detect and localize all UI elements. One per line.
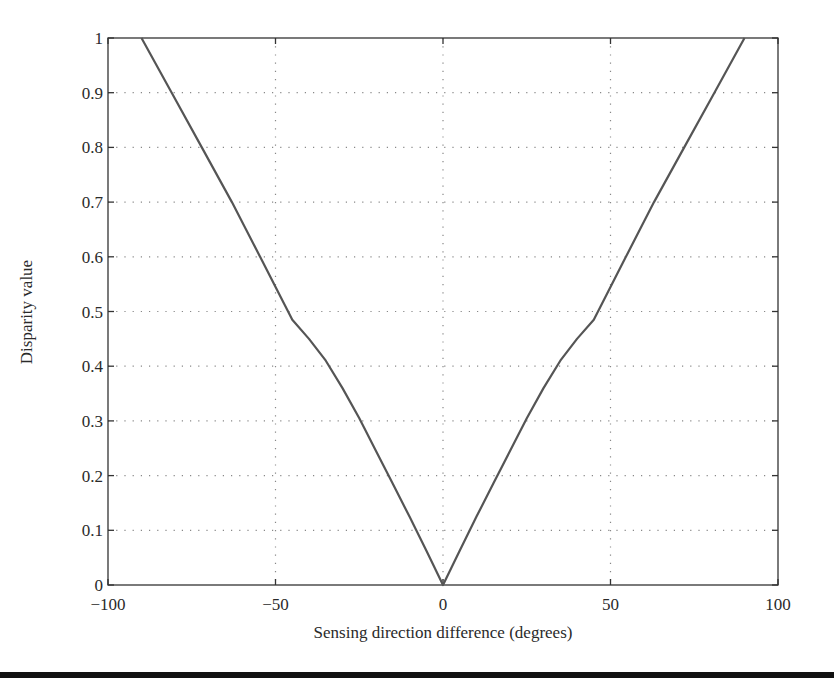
- grid-lines: [108, 38, 778, 585]
- y-tick-label: 0: [95, 576, 104, 595]
- x-tick-label: 50: [602, 595, 619, 614]
- bottom-rule-divider: [0, 672, 834, 678]
- x-tick-label: −50: [262, 595, 289, 614]
- line-chart: −100−50050100 00.10.20.30.40.50.60.70.80…: [0, 0, 834, 685]
- y-tick-label: 0.7: [82, 193, 104, 212]
- y-axis-label: Disparity value: [17, 260, 36, 364]
- x-axis-label: Sensing direction difference (degrees): [314, 623, 573, 642]
- x-tick-label: −100: [90, 595, 125, 614]
- y-tick-label: 0.5: [82, 303, 103, 322]
- y-tick-label: 0.1: [82, 521, 103, 540]
- y-tick-labels: 00.10.20.30.40.50.60.70.80.91: [82, 29, 104, 595]
- x-tick-label: 0: [439, 595, 448, 614]
- y-tick-label: 0.3: [82, 412, 103, 431]
- y-tick-label: 0.2: [82, 467, 103, 486]
- x-tick-labels: −100−50050100: [90, 595, 790, 614]
- x-tick-label: 100: [765, 595, 791, 614]
- y-tick-label: 1: [95, 29, 104, 48]
- y-tick-label: 0.4: [82, 357, 104, 376]
- y-tick-label: 0.9: [82, 84, 103, 103]
- y-tick-label: 0.6: [82, 248, 103, 267]
- y-tick-label: 0.8: [82, 138, 103, 157]
